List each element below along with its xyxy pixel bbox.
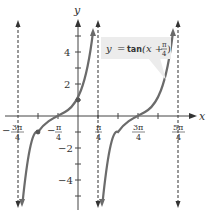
callout-arg: (x + [142,43,163,54]
tangent-graph: y = tan (x + π 4 ) y x 4 2 −2 −4 − 3π 4 … [0,0,209,217]
y-tick-label: −4 [58,175,73,186]
svg-text:4: 4 [136,133,141,142]
x-tick-label-3pi-4: 3π 4 [132,123,145,142]
svg-text:4: 4 [96,133,101,142]
arrow-up-icon [16,20,21,27]
svg-text:π: π [56,123,61,132]
svg-text:5π: 5π [173,123,183,132]
svg-text:−: − [47,125,55,136]
svg-text:4: 4 [56,133,61,142]
point-0-1 [76,98,81,103]
x-axis-arrow-icon [189,113,197,119]
svg-text:3π: 3π [12,123,22,132]
curve-arrow-icon [99,199,105,207]
function-callout: y = tan (x + π 4 ) [101,37,171,80]
y-tick-label: 2 [64,79,70,90]
y-tick-label: 4 [64,47,70,58]
callout-tail [148,58,166,80]
svg-text:4: 4 [15,133,20,142]
y-tick-label: −2 [58,143,73,154]
arrow-down-icon [176,201,181,208]
x-tick-label-pi-4: π 4 [95,123,102,142]
curve-arrow-icon [170,28,176,36]
callout-fn: tan [127,45,142,54]
x-axis-label: x [199,110,206,123]
y-axis-label: y [73,4,81,17]
x-tick-label-neg-3pi-4: − 3π 4 [2,123,24,142]
arrow-down-icon [16,201,21,208]
callout-close: ) [167,43,171,54]
svg-text:−: − [2,125,10,136]
svg-text:3π: 3π [133,123,143,132]
callout-lhs: y [105,43,112,54]
arrow-up-icon [176,20,181,27]
callout-eq: = [117,43,125,54]
y-axis-arrow-icon [75,19,81,27]
x-tick-label-5pi-4: 5π 4 [172,123,185,142]
x-tick-label-neg-pi-4: − π 4 [47,123,62,142]
svg-text:4: 4 [176,133,181,142]
curve-arrow-icon [19,199,25,207]
svg-text:π: π [96,123,101,132]
point-neg-pi-2 [36,130,41,135]
curve-arrow-icon [90,28,96,36]
arrow-down-icon [96,201,101,208]
arrow-up-icon [96,20,101,27]
